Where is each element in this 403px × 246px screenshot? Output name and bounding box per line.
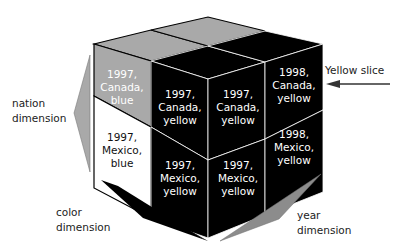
yellow-slice-label: Yellow slice <box>324 64 384 76</box>
svg-text:Canada,: Canada, <box>158 101 201 113</box>
svg-text:yellow: yellow <box>163 185 197 197</box>
svg-text:Mexico,: Mexico, <box>274 141 314 153</box>
svg-text:Mexico,: Mexico, <box>160 172 200 184</box>
cell-label-1998-mexico-yellow: 1998, Mexico, yellow <box>274 128 314 166</box>
svg-text:blue: blue <box>111 157 134 169</box>
color-dimension-label: color dimension <box>56 206 110 233</box>
svg-text:1997,: 1997, <box>165 159 195 171</box>
cell-label-1997-mexico-yellow-b: 1997, Mexico, yellow <box>218 159 258 197</box>
svg-text:1997,: 1997, <box>165 88 195 100</box>
cell-label-1997-mexico-yellow-a: 1997, Mexico, yellow <box>160 159 200 197</box>
svg-text:yellow: yellow <box>163 114 197 126</box>
svg-text:1998,: 1998, <box>279 66 309 78</box>
svg-text:1997,: 1997, <box>223 88 253 100</box>
svg-text:yellow: yellow <box>277 92 311 104</box>
svg-text:Mexico,: Mexico, <box>218 172 258 184</box>
data-cube-diagram: 1997, Canada, blue 1997, Canada, yellow … <box>0 0 403 246</box>
svg-text:1997,: 1997, <box>107 131 137 143</box>
nation-dimension-arrow <box>74 55 90 172</box>
svg-text:1997,: 1997, <box>223 159 253 171</box>
svg-text:1998,: 1998, <box>279 128 309 140</box>
svg-text:color: color <box>56 206 83 218</box>
svg-text:yellow: yellow <box>221 185 255 197</box>
svg-text:Canada,: Canada, <box>100 81 143 93</box>
yellow-slice-arrow-icon <box>326 80 390 88</box>
svg-text:Mexico,: Mexico, <box>102 144 142 156</box>
nation-dimension-label: nation dimension <box>12 97 66 124</box>
svg-text:nation: nation <box>12 97 45 109</box>
svg-text:dimension: dimension <box>56 221 110 233</box>
svg-text:dimension: dimension <box>12 112 66 124</box>
year-dimension-label: year dimension <box>297 209 351 236</box>
svg-text:blue: blue <box>111 94 134 106</box>
svg-text:dimension: dimension <box>297 224 351 236</box>
svg-text:yellow: yellow <box>277 154 311 166</box>
svg-text:yellow: yellow <box>221 114 255 126</box>
svg-text:year: year <box>297 209 321 221</box>
svg-text:Canada,: Canada, <box>272 79 315 91</box>
svg-text:Canada,: Canada, <box>216 101 259 113</box>
svg-text:1997,: 1997, <box>107 68 137 80</box>
